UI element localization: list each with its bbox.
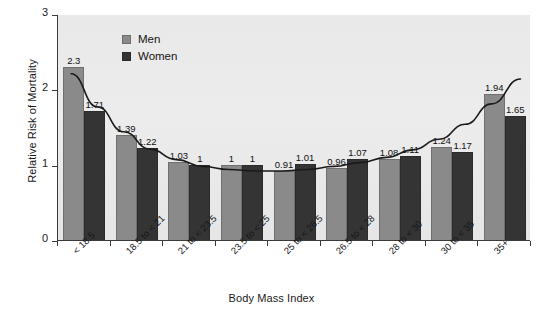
bar-women-8: [505, 116, 526, 240]
y-tick-label: 3: [42, 7, 48, 18]
bar-men-1: [116, 135, 137, 240]
x-tick-mark-1: [110, 241, 111, 246]
bar-men-0: [63, 67, 84, 240]
bar-value-label-men-8: 1.94: [478, 83, 511, 93]
y-tick-label: 0: [42, 233, 48, 244]
bar-value-label-women-3: 1: [236, 154, 269, 164]
bar-value-label-women-1: 1.22: [131, 137, 164, 147]
x-axis-title: Body Mass Index: [0, 292, 543, 304]
bar-men-3: [221, 165, 242, 240]
x-tick-mark-5: [320, 241, 321, 246]
y-tick-2: 2: [0, 90, 57, 91]
x-tick-mark-0: [57, 241, 58, 246]
bar-women-0: [84, 111, 105, 240]
legend-swatch-women-icon: [122, 52, 131, 61]
bmi-mortality-chart: Relative Risk of Mortality 0123 Men Wome…: [0, 0, 543, 316]
bar-value-label-women-8: 1.65: [499, 105, 532, 115]
x-tick-mark-7: [425, 241, 426, 246]
legend-label-women: Women: [138, 51, 177, 63]
x-tick-mark-8: [477, 241, 478, 246]
x-tick-mark-4: [267, 241, 268, 246]
bar-value-label-women-2: 1: [183, 154, 216, 164]
bar-men-7: [431, 147, 452, 240]
bar-men-2: [168, 162, 189, 240]
y-tick-1: 1: [0, 166, 57, 167]
bar-value-label-women-4: 1.01: [289, 153, 322, 163]
x-tick-mark-2: [162, 241, 163, 246]
legend-item-women: Women: [122, 51, 177, 63]
x-tick-mark-9: [530, 241, 531, 246]
bar-value-label-women-5: 1.07: [341, 148, 374, 158]
bar-men-4: [274, 171, 295, 240]
bar-men-6: [379, 159, 400, 240]
legend-swatch-men-icon: [122, 35, 131, 44]
legend-item-men: Men: [122, 34, 177, 46]
chart-legend: Men Women: [122, 34, 177, 62]
bar-value-label-women-7: 1.17: [446, 141, 479, 151]
bar-value-label-women-6: 1.11: [394, 145, 427, 155]
bar-value-label-women-0: 1.71: [78, 100, 111, 110]
y-tick-3: 3: [0, 15, 57, 16]
bar-value-label-men-0: 2.3: [57, 56, 90, 66]
bar-men-5: [326, 168, 347, 240]
y-tick-label: 2: [42, 82, 48, 93]
y-axis-title: Relative Risk of Mortality: [26, 6, 38, 236]
x-tick-mark-6: [372, 241, 373, 246]
bar-value-label-men-1: 1.39: [110, 124, 143, 134]
plot-area: Men Women 2.31.711.391.221.031110.911.01…: [57, 15, 530, 241]
bar-men-8: [484, 94, 505, 240]
x-tick-mark-3: [215, 241, 216, 246]
legend-label-men: Men: [138, 34, 160, 46]
y-tick-label: 1: [42, 158, 48, 169]
y-tick-0: 0: [0, 241, 57, 242]
